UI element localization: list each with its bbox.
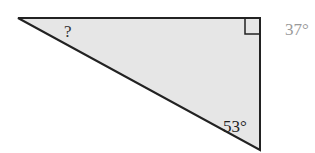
bottom-angle-label: 53° bbox=[223, 118, 247, 135]
side-angle-label: 37° bbox=[285, 21, 309, 38]
triangle-figure bbox=[0, 0, 315, 153]
unknown-angle-label: ? bbox=[64, 23, 72, 40]
